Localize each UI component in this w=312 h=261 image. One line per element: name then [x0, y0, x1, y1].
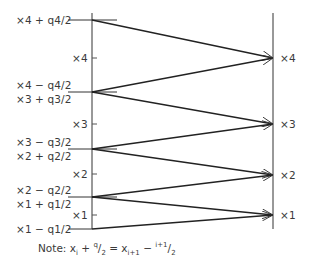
label-x4-plus-q4: ×4 + q4/2: [16, 14, 71, 26]
label-x1-minus-q1: ×1 − q1/2: [16, 223, 71, 235]
note-minus: −: [140, 242, 155, 254]
note-prefix: Note:: [38, 242, 70, 254]
arrow-20-to-x4: [92, 20, 273, 58]
label-x3-minus-q3: ×3 − q3/2: [16, 136, 71, 148]
arrow-149-to-x3: [92, 124, 273, 149]
arrow-229-to-x1: [92, 215, 273, 229]
note-x-next-sub: i+1: [128, 249, 140, 257]
arrow-92-to-x4: [92, 58, 273, 92]
quantizer-diagram: [0, 0, 312, 261]
label-x2-minus-q2: ×2 − q2/2: [16, 184, 71, 196]
left-level-x4: ×4: [72, 52, 88, 64]
note-caption: Note: xi + q/2 = xi+1 − i+1/2: [38, 241, 176, 257]
label-x3-plus-q3: ×3 + q3/2: [16, 93, 71, 105]
label-x2-plus-q2: ×2 + q2/2: [16, 150, 71, 162]
label-x4-minus-q4: ×4 − q4/2: [16, 79, 71, 91]
right-level-x1: ×1: [280, 209, 296, 221]
note-equals: =: [106, 242, 121, 254]
note-two-next: 2: [171, 249, 175, 257]
arrow-197-to-x1: [92, 197, 273, 215]
arrow-92-to-x3: [92, 92, 273, 124]
arrow-197-to-x2: [92, 175, 273, 197]
right-level-x4: ×4: [280, 52, 296, 64]
label-x1-plus-q1: ×1 + q1/2: [16, 198, 71, 210]
left-level-x3: ×3: [72, 118, 88, 130]
arrow-149-to-x2: [92, 149, 273, 175]
right-level-x2: ×2: [280, 169, 296, 181]
note-q-next: i+1: [155, 241, 167, 249]
right-level-x3: ×3: [280, 118, 296, 130]
left-level-x2: ×2: [72, 168, 88, 180]
left-level-x1: ×1: [72, 209, 88, 221]
note-plus: +: [78, 242, 93, 254]
